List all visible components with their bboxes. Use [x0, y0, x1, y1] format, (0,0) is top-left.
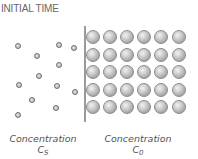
large-particle: [154, 48, 168, 62]
small-particle: [72, 89, 78, 95]
large-particle: [120, 65, 134, 79]
large-particle: [172, 30, 186, 44]
large-particle: [103, 30, 117, 44]
small-particle: [53, 105, 59, 111]
large-particle: [172, 83, 186, 97]
large-particle: [172, 65, 186, 79]
large-particle: [137, 83, 151, 97]
label-left: Concentration CS: [0, 133, 88, 159]
small-particle: [16, 82, 22, 88]
label-left-symbol: CS: [0, 144, 88, 159]
small-particle: [29, 97, 35, 103]
large-particle: [103, 100, 117, 114]
title: INITIAL TIME: [1, 3, 59, 14]
large-particle: [120, 48, 134, 62]
label-right: Concentration C0: [93, 133, 183, 159]
large-particle: [137, 100, 151, 114]
small-particle: [54, 83, 60, 89]
large-particle: [172, 100, 186, 114]
large-particle: [120, 83, 134, 97]
large-particle: [154, 30, 168, 44]
label-left-word: Concentration: [9, 133, 76, 144]
small-particle: [15, 112, 21, 118]
large-particle: [154, 83, 168, 97]
small-particle: [56, 62, 62, 68]
small-particle: [71, 45, 77, 51]
large-particle: [103, 65, 117, 79]
small-particle: [36, 73, 42, 79]
small-particle: [15, 43, 21, 49]
large-particle: [86, 100, 100, 114]
large-particle: [103, 48, 117, 62]
large-particle: [86, 30, 100, 44]
label-right-word: Concentration: [104, 133, 171, 144]
large-particle: [172, 48, 186, 62]
large-particle: [120, 100, 134, 114]
label-right-subscript: 0: [139, 149, 143, 157]
large-particle: [137, 30, 151, 44]
large-particle: [137, 65, 151, 79]
small-particle: [34, 53, 40, 59]
large-particle: [154, 100, 168, 114]
large-particle: [154, 65, 168, 79]
label-left-subscript: S: [44, 149, 48, 157]
large-particle: [120, 30, 134, 44]
large-particle: [86, 65, 100, 79]
large-particle: [86, 48, 100, 62]
large-particle: [103, 83, 117, 97]
small-particle: [56, 42, 62, 48]
large-particle: [137, 48, 151, 62]
large-particle: [86, 83, 100, 97]
label-right-symbol: C0: [93, 144, 183, 159]
